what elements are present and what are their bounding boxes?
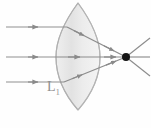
arrow-ray-top-near-focus [104,46,114,51]
ray-diagram-canvas [0,0,151,128]
incoming-ray-arrowheads [28,27,38,82]
arrow-ray-bottom-near-focus [106,61,116,65]
focal-point-dot [122,53,130,61]
diverging-ray-upper [126,38,150,57]
lens-label-subscript: 1 [56,87,61,97]
lens-label: L1 [47,80,60,97]
diverging-ray-lower [126,57,150,76]
lens-label-letter: L [47,79,56,94]
optics-ray-diagram-figure: L1 [0,0,151,128]
